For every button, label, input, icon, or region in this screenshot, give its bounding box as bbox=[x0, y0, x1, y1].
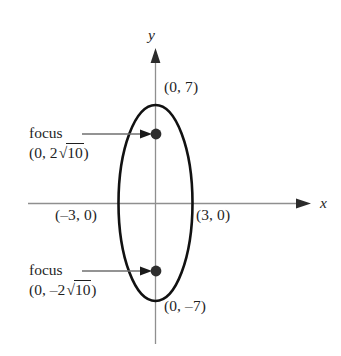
top-vertex-label: (0, 7) bbox=[164, 78, 198, 96]
right-covertex-label: (3, 0) bbox=[196, 206, 230, 224]
focus-lower-radical: √10 bbox=[65, 280, 91, 300]
focus-upper-open-paren: (0, 2 bbox=[29, 144, 57, 161]
y-axis-arrowhead bbox=[151, 48, 161, 63]
focus-lower-leader-arrowhead bbox=[140, 266, 152, 275]
focus-upper-radical: √10 bbox=[57, 143, 83, 163]
focus-upper-close-paren: ) bbox=[84, 144, 89, 161]
focus-upper-word: focus bbox=[29, 123, 89, 143]
focus-point-upper bbox=[151, 129, 162, 140]
ellipse-diagram: y x (0, 7) (0, –7) (–3, 0) (3, 0) focus … bbox=[0, 0, 341, 356]
focus-upper-coordinate: (0, 2√10) bbox=[29, 143, 89, 163]
bottom-vertex-label: (0, –7) bbox=[164, 297, 206, 315]
focus-upper-radicand: 10 bbox=[66, 143, 83, 161]
focus-point-lower bbox=[151, 266, 162, 277]
focus-upper-annotation: focus (0, 2√10) bbox=[29, 123, 89, 163]
focus-lower-close-paren: ) bbox=[91, 281, 96, 298]
focus-lower-open-paren: (0, –2 bbox=[29, 281, 65, 298]
focus-upper-leader-arrowhead bbox=[140, 129, 152, 138]
focus-lower-radicand: 10 bbox=[74, 280, 91, 298]
x-axis-arrowhead bbox=[296, 199, 311, 209]
y-axis-label: y bbox=[148, 26, 155, 44]
focus-lower-coordinate: (0, –2√10) bbox=[29, 280, 97, 300]
focus-lower-word: focus bbox=[29, 260, 97, 280]
x-axis-label: x bbox=[320, 194, 327, 212]
left-covertex-label: (–3, 0) bbox=[55, 206, 97, 224]
focus-lower-annotation: focus (0, –2√10) bbox=[29, 260, 97, 300]
